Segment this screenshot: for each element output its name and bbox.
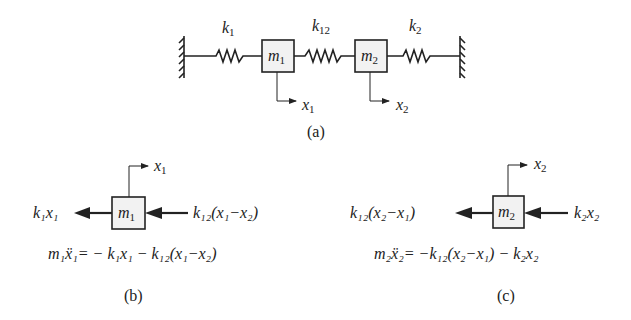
label-m1: m1 (268, 48, 285, 66)
fbd-b-x1-arrow (129, 166, 148, 197)
force-k12-arrow-b (145, 207, 188, 219)
spring-k1 (184, 50, 262, 62)
fbd-c-left-force: k₁₂(x₂−x₁) (350, 205, 415, 221)
label-k2: k2 (409, 18, 422, 36)
left-wall (179, 36, 184, 78)
fbd-c-x2-arrow (508, 165, 527, 196)
caption-c: (c) (497, 288, 515, 304)
force-k12-arrow-c (455, 207, 493, 219)
label-k12: k12 (312, 18, 330, 36)
fbd-b-mass-label: m1 (118, 205, 135, 223)
force-k1x1-arrow (74, 207, 112, 219)
fbd-b-equation: m₁ẍ₁= − k₁x₁ − k₁₂(x₁−x₂) (48, 246, 217, 262)
fbd-c-label-x2: x2 (534, 156, 547, 174)
fbd-c-mass-label: m2 (498, 204, 515, 222)
fbd-c-right-force: k₂x₂ (574, 205, 599, 221)
fbd-b-left-force: k₁x₁ (33, 205, 58, 221)
fbd-b-right-force: k₁₂(x₁−x₂) (193, 205, 258, 221)
right-wall (460, 36, 465, 78)
x1-arrow (277, 72, 296, 101)
fbd-c-equation: m₂ẍ₂= −k₁₂(x₂−x₁) − k₂x₂ (374, 246, 539, 262)
force-k2x2-arrow (524, 207, 568, 219)
caption-a: (a) (307, 124, 325, 140)
label-k1: k1 (222, 20, 235, 38)
caption-b: (b) (124, 288, 143, 304)
label-m2: m2 (361, 48, 378, 66)
fbd-b-label-x1: x1 (154, 158, 167, 176)
label-x2: x2 (396, 97, 409, 115)
spring-k2 (387, 50, 460, 62)
x2-arrow (370, 72, 389, 101)
label-x1: x1 (302, 97, 315, 115)
spring-k12 (294, 50, 355, 62)
